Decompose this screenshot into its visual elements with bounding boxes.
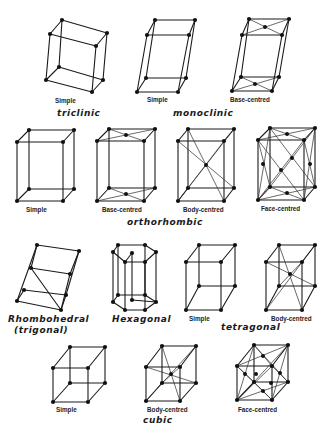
centred-lattice-point — [204, 163, 208, 167]
lattice-point — [154, 250, 158, 254]
lattice-point — [194, 381, 198, 385]
lattice-point — [286, 380, 290, 384]
lattice-point — [160, 381, 164, 385]
lattice-point — [286, 343, 290, 347]
lattice-label: Face-centred — [238, 406, 277, 413]
lattice-point — [176, 139, 180, 143]
lattice-point — [160, 344, 164, 348]
lattice-point — [135, 90, 139, 94]
lattice-point — [178, 365, 182, 369]
lattice-point — [64, 293, 68, 297]
lattice-point — [105, 31, 109, 35]
lattice-point — [59, 308, 63, 312]
bravais-lattices-diagram: SimpleSimpleBase-centredSimpleBase-centr… — [0, 0, 333, 439]
lattice-label: Simple — [147, 96, 168, 104]
lattice-point — [187, 33, 191, 37]
crystal-system-sublabel: (trigonal) — [14, 325, 68, 335]
lattice-point — [29, 266, 33, 270]
lattice-point — [264, 260, 268, 264]
lattice-point — [15, 199, 19, 203]
lattice-point — [68, 381, 72, 385]
lattice-point — [101, 78, 105, 82]
lattice-point — [270, 398, 274, 402]
lattice-point — [153, 127, 157, 131]
lattice-point — [313, 126, 317, 130]
lattice-point — [277, 75, 281, 79]
lattice-label: Face-centred — [261, 205, 300, 212]
lattice-point — [239, 75, 243, 79]
lattice-point — [107, 186, 111, 190]
crystal-system-label: orthorhombic — [127, 217, 203, 227]
lattice-point — [302, 198, 306, 202]
lattice-point — [230, 89, 234, 93]
lattice-point — [277, 284, 281, 288]
lattice-point — [247, 17, 251, 21]
lattice-point — [44, 78, 48, 82]
lattice-point — [61, 140, 65, 144]
lattice-point — [184, 308, 188, 312]
lattice-point — [252, 343, 256, 347]
lattice-point — [144, 76, 148, 80]
lattice-point — [15, 299, 19, 303]
lattice-point — [264, 308, 268, 312]
lattice-point — [222, 139, 226, 143]
centred-lattice-point — [308, 162, 312, 166]
lattice-point — [154, 300, 158, 304]
lattice-label: Simple — [55, 97, 76, 105]
lattice-point — [235, 364, 239, 368]
lattice-label: Simple — [56, 406, 77, 414]
lattice-point — [116, 243, 120, 247]
lattice-point — [193, 18, 197, 22]
centred-lattice-point — [288, 272, 292, 276]
lattice-point — [186, 127, 190, 131]
lattice-figure: SimpleSimpleBase-centredSimpleBase-centr… — [0, 0, 333, 439]
lattice-point — [222, 199, 226, 203]
crystal-system-label: monoclinic — [173, 108, 234, 118]
lattice-point — [256, 198, 260, 202]
lattice-point — [153, 18, 157, 22]
lattice-label: Base-centred — [230, 96, 270, 103]
lattice-label: Simple — [189, 315, 210, 323]
lattice-point — [270, 364, 274, 368]
lattice-point — [48, 32, 52, 36]
lattice-point — [300, 308, 304, 312]
lattice-point — [15, 140, 19, 144]
lattice-point — [144, 399, 148, 403]
lattice-point — [111, 300, 115, 304]
centred-lattice-point — [261, 354, 265, 358]
lattice-point — [77, 249, 81, 253]
centred-lattice-point — [243, 372, 247, 376]
lattice-point — [107, 127, 111, 131]
lattice-label: Base-centred — [102, 206, 142, 213]
lattice-point — [22, 288, 26, 292]
lattice-point — [142, 199, 146, 203]
centred-lattice-point — [254, 372, 258, 376]
lattice-point — [86, 400, 90, 404]
lattice-label: Body-centred — [147, 406, 188, 414]
lattice-point — [95, 199, 99, 203]
lattice-point — [300, 260, 304, 264]
lattice-point — [86, 366, 90, 370]
lattice-point — [280, 33, 284, 37]
lattice-label: Body-centred — [183, 206, 224, 214]
lattice-point — [176, 90, 180, 94]
lattice-point — [143, 308, 147, 312]
lattice-point — [178, 399, 182, 403]
lattice-point — [72, 187, 76, 191]
lattice-point — [270, 89, 274, 93]
lattice-point — [144, 365, 148, 369]
lattice-point — [130, 298, 134, 302]
lattice-point — [60, 18, 64, 22]
lattice-point — [184, 76, 188, 80]
centred-lattice-point — [124, 192, 128, 196]
lattice-point — [143, 260, 147, 264]
lattice-point — [302, 138, 306, 142]
lattice-point — [268, 126, 272, 130]
lattice-point — [287, 17, 291, 21]
lattice-point — [219, 260, 223, 264]
lattice-point — [233, 284, 237, 288]
lattice-point — [256, 138, 260, 142]
lattice-point — [103, 381, 107, 385]
lattice-point — [184, 260, 188, 264]
centred-lattice-point — [124, 133, 128, 137]
